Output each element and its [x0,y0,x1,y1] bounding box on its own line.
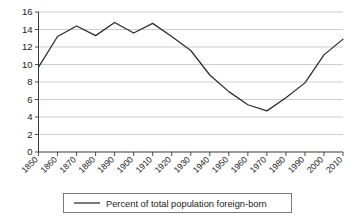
y-tick-label-2: 2 [27,129,32,140]
y-tick-label-16: 16 [22,6,33,17]
legend-entry-label: Percent of total population foreign-born [106,199,267,209]
y-tick-label-6: 6 [27,94,32,105]
chart-container: 0246810121416 18501860187018801890190019… [0,0,354,223]
y-tick-label-8: 8 [27,76,32,87]
chart-background [0,0,354,223]
y-tick-label-12: 12 [22,41,33,52]
y-tick-label-4: 4 [27,111,32,122]
y-tick-label-10: 10 [22,59,33,70]
y-tick-label-14: 14 [22,24,33,35]
foreign-born-population-line-chart: 0246810121416 18501860187018801890190019… [0,0,354,223]
